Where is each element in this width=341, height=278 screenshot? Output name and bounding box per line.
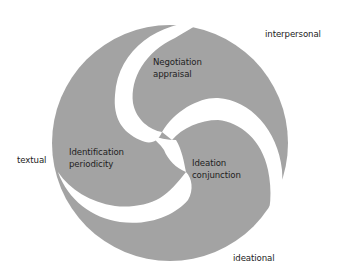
lobe-left-line2: periodicity bbox=[69, 158, 113, 170]
triskelion-circle bbox=[0, 0, 341, 278]
lobe-right-line2: conjunction bbox=[192, 169, 241, 181]
lobe-top-line1: Negotiation bbox=[153, 56, 202, 68]
lobe-top-line2: appraisal bbox=[153, 68, 192, 80]
label-ideational: ideational bbox=[233, 252, 275, 264]
label-textual: textual bbox=[17, 154, 46, 166]
label-interpersonal: interpersonal bbox=[265, 28, 321, 40]
lobe-left-line1: Identification bbox=[69, 146, 124, 158]
lobe-right-line1: Ideation bbox=[192, 157, 226, 169]
metafunction-diagram: interpersonal textual ideational Negotia… bbox=[0, 0, 341, 278]
